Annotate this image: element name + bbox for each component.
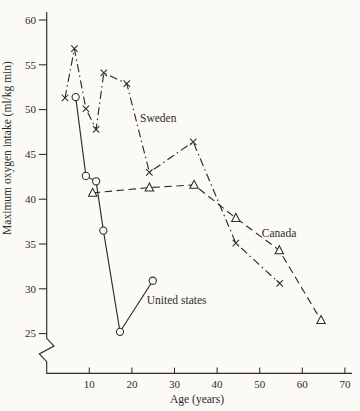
x-axis-tick-label: 10 [84, 378, 96, 390]
x-axis-tick-label: 60 [297, 378, 309, 390]
series-label-united-states: United states [147, 294, 207, 306]
x-axis-tick-label: 70 [339, 378, 351, 390]
chart-layer: 605550454035302510203040506070SwedenCana… [25, 12, 352, 390]
series-label-sweden: Sweden [140, 112, 177, 124]
sweden-marker-x [233, 240, 239, 246]
y-axis-tick-label: 55 [25, 59, 37, 71]
sweden-line [65, 49, 280, 284]
united-states-marker-circle [72, 93, 79, 100]
united-states-marker-circle [93, 178, 100, 185]
canada-line [93, 185, 321, 320]
x-axis-title: Age (years) [170, 393, 224, 406]
united-states-marker-circle [116, 328, 123, 335]
united-states-marker-circle [82, 172, 89, 179]
figure-panel: 605550454035302510203040506070SwedenCana… [0, 0, 360, 411]
sweden-marker-x [277, 280, 283, 286]
sweden-marker-x [190, 139, 196, 145]
axis-lines [39, 12, 352, 373]
united-states-marker-circle [100, 227, 107, 234]
y-axis-tick-label: 60 [25, 14, 37, 26]
y-axis-tick-label: 45 [25, 148, 37, 160]
canada-marker-triangle [190, 180, 198, 188]
x-axis-tick-label: 30 [169, 378, 181, 390]
canada-marker-triangle [275, 246, 283, 254]
y-axis-tick-label: 50 [25, 103, 37, 115]
oxygen-intake-line-chart: 605550454035302510203040506070SwedenCana… [0, 0, 360, 411]
sweden-marker-x [146, 169, 152, 175]
x-axis-tick-label: 50 [254, 378, 266, 390]
y-axis-tick-label: 25 [25, 327, 37, 339]
sweden-marker-x [83, 106, 89, 112]
canada-marker-triangle [232, 213, 240, 221]
y-axis-tick-label: 35 [25, 238, 37, 250]
united-states-marker-circle [149, 277, 156, 284]
y-axis-tick-label: 30 [25, 283, 37, 295]
canada-marker-triangle [317, 316, 325, 324]
x-axis-tick-label: 40 [212, 378, 224, 390]
y-axis-title: Maximum oxygen intake (ml/kg min) [1, 61, 14, 235]
canada-marker-triangle [145, 183, 153, 191]
series-label-canada: Canada [262, 227, 296, 239]
x-axis-tick-label: 20 [126, 378, 138, 390]
y-axis-tick-label: 40 [25, 193, 37, 205]
united-states-line [76, 97, 153, 332]
